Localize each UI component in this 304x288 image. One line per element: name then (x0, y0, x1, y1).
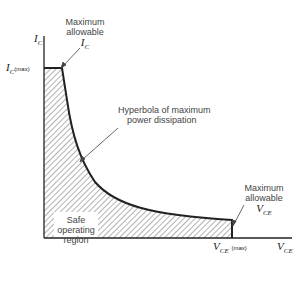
max-ic-annotation: Maximum allowable IC (60, 17, 110, 52)
hyperbola-annotation: Hyperbola of maximum power dissipation (118, 105, 218, 125)
ic-max-label: IC(max) (6, 61, 30, 76)
soa-diagram (0, 0, 304, 288)
y-axis-label: IC (34, 32, 42, 47)
safe-region-label: Safe operating region (54, 215, 98, 245)
max-vce-annotation: Maximum allowable VCE (240, 183, 288, 218)
x-axis-label: VCE (277, 240, 293, 255)
vce-max-label: VCE (max) (213, 240, 247, 255)
